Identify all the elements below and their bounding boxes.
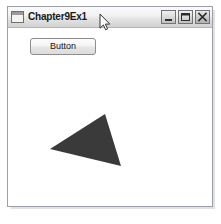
window-titlebar[interactable]: Chapter9Ex1: [8, 7, 212, 28]
graphics-canvas: [8, 28, 212, 206]
screen-canvas: Chapter9Ex1: [0, 0, 221, 224]
window-title: Chapter9Ex1: [28, 12, 161, 22]
minimize-icon: [162, 11, 175, 23]
window-client-area: Button: [8, 28, 212, 206]
minimize-button[interactable]: [161, 10, 176, 24]
maximize-button[interactable]: [178, 10, 193, 24]
triangle-shape: [50, 114, 121, 166]
close-button[interactable]: [195, 10, 210, 24]
maximize-icon: [179, 11, 192, 23]
window-document-icon[interactable]: [11, 11, 24, 23]
close-icon: [196, 11, 209, 23]
window-controls: [161, 10, 210, 24]
application-window: Chapter9Ex1: [7, 6, 213, 207]
